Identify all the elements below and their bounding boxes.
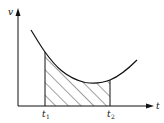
y-axis-label: v <box>8 7 13 17</box>
x-axis-label: t <box>156 101 160 111</box>
svg-text:1: 1 <box>46 113 50 120</box>
shaded-area <box>40 40 120 110</box>
x-axis-arrow-icon <box>146 104 154 109</box>
svg-text:2: 2 <box>111 113 115 120</box>
velocity-time-diagram: v t t 1 t 2 <box>0 0 164 123</box>
t2-label: t 2 <box>107 109 115 120</box>
y-axis <box>16 8 21 106</box>
y-axis-arrow-icon <box>16 8 21 16</box>
t1-label: t 1 <box>42 109 50 120</box>
